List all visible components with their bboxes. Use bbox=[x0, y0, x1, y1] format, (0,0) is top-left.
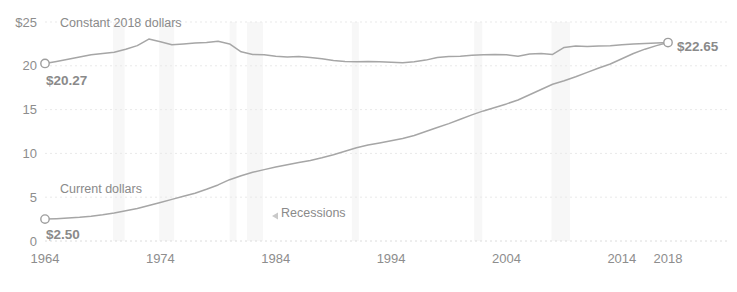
x-axis-tick-label: 2004 bbox=[492, 251, 521, 266]
x-axis-tick-label: 1974 bbox=[146, 251, 175, 266]
recession-band bbox=[230, 22, 237, 241]
y-axis-tick-label: 10 bbox=[23, 146, 37, 161]
y-axis-tick-labels: $2520151050 bbox=[15, 15, 37, 249]
recessions-label: Recessions bbox=[281, 206, 346, 220]
endpoint-marker bbox=[41, 215, 49, 223]
x-axis-tick-label: 1984 bbox=[261, 251, 290, 266]
x-axis-tick-labels: 1964197419841994200420142018 bbox=[31, 251, 683, 266]
endpoint-marker bbox=[664, 38, 672, 46]
x-axis-tick-label: 2014 bbox=[607, 251, 636, 266]
endpoint-marker bbox=[41, 59, 49, 67]
y-axis-tick-label: 5 bbox=[30, 190, 37, 205]
recession-arrow-icon bbox=[272, 213, 278, 220]
constant-dollars-series-label: Constant 2018 dollars bbox=[60, 16, 182, 30]
chart-svg: $2520151050 1964197419841994200420142018 bbox=[0, 0, 737, 292]
recession-band bbox=[551, 22, 569, 241]
recession-band bbox=[159, 22, 174, 241]
recession-band bbox=[113, 22, 125, 241]
start-value-constant-label: $20.27 bbox=[46, 73, 87, 88]
x-axis-tick-label: 1964 bbox=[31, 251, 60, 266]
current-dollars-series-label: Current dollars bbox=[60, 182, 142, 196]
x-axis-tick-label: 1994 bbox=[377, 251, 406, 266]
gridlines bbox=[45, 22, 728, 241]
end-value-label: $22.65 bbox=[677, 39, 718, 54]
y-axis-tick-label: 20 bbox=[23, 58, 37, 73]
x-axis-tick-label: 2018 bbox=[654, 251, 683, 266]
chart-container: $2520151050 1964197419841994200420142018… bbox=[0, 0, 737, 292]
y-axis-tick-label: 0 bbox=[30, 234, 37, 249]
recession-band bbox=[352, 22, 359, 241]
y-axis-tick-label: $25 bbox=[15, 15, 37, 30]
start-value-current-label: $2.50 bbox=[46, 227, 80, 242]
y-axis-tick-label: 15 bbox=[23, 102, 37, 117]
